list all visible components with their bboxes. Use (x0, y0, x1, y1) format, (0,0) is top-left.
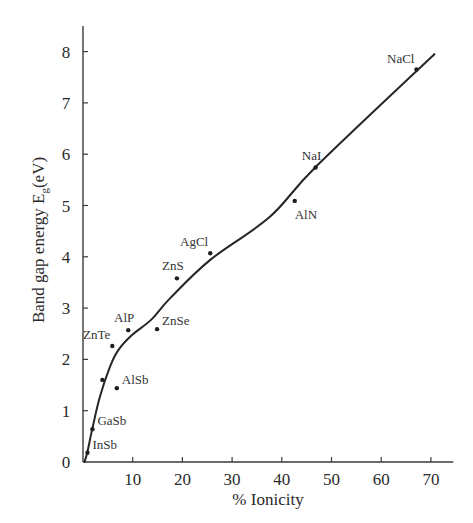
y-tick-label: 4 (62, 248, 71, 267)
point-marker (208, 251, 212, 255)
data-point-aln: AlN (293, 199, 318, 222)
point-label: AgCl (180, 234, 209, 249)
y-axis-title: Band gap energy Eg(eV) (29, 157, 50, 323)
y-tick-label: 3 (62, 299, 71, 318)
point-marker (100, 378, 104, 382)
x-tick-label: 20 (174, 470, 191, 489)
y-tick-label: 2 (62, 350, 71, 369)
data-point-alsb: AlSb (115, 372, 149, 390)
data-point-alp: AlP (114, 310, 134, 332)
point-label: AlN (295, 207, 318, 222)
point-marker (414, 67, 418, 71)
point-label: InSb (92, 437, 117, 452)
point-marker (90, 427, 94, 431)
point-label: ZnS (162, 258, 184, 273)
point-label: AlSb (122, 372, 149, 387)
trend-curve (84, 54, 434, 462)
point-marker (110, 344, 114, 348)
x-tick-label: 40 (273, 470, 290, 489)
band-gap-vs-ionicity-chart: 012345678 10203040506070 InSbGaSbAlSbZnT… (0, 0, 473, 523)
x-tick-label: 30 (224, 470, 241, 489)
data-point-agcl: AgCl (180, 234, 212, 255)
point-marker (313, 165, 317, 169)
point-label: NaI (302, 148, 322, 163)
y-tick-label: 1 (62, 402, 71, 421)
x-tick-label: 70 (422, 470, 439, 489)
data-points: InSbGaSbAlSbZnTeAlPZnSeZnSAgClAlNNaINaCl (83, 51, 419, 455)
point-marker (293, 199, 297, 203)
data-point-unlabeled (100, 378, 104, 382)
data-point-zns: ZnS (162, 258, 184, 280)
y-tick-label: 8 (62, 43, 71, 62)
y-tick-label: 5 (62, 197, 71, 216)
x-tick-label: 60 (373, 470, 390, 489)
x-axis-title: % Ionicity (232, 490, 304, 509)
y-axis-title-unit: (eV) (29, 157, 48, 188)
point-label: NaCl (387, 51, 415, 66)
point-label: ZnSe (162, 313, 190, 328)
y-tick-label: 0 (62, 453, 71, 472)
point-marker (175, 276, 179, 280)
y-tick-label: 6 (62, 145, 71, 164)
y-tick-label: 7 (62, 94, 71, 113)
x-tick-label: 50 (323, 470, 340, 489)
axes (83, 26, 453, 462)
y-axis-title-main: Band gap energy E (29, 194, 48, 324)
point-label: GaSb (97, 413, 126, 428)
point-marker (85, 451, 89, 455)
data-point-znse: ZnSe (155, 313, 190, 331)
data-point-nacl: NaCl (387, 51, 419, 72)
point-marker (126, 328, 130, 332)
point-label: AlP (114, 310, 134, 325)
data-point-znte: ZnTe (83, 327, 114, 348)
point-marker (155, 327, 159, 331)
x-tick-label: 10 (124, 470, 141, 489)
point-marker (115, 386, 119, 390)
data-point-nai: NaI (302, 148, 322, 170)
y-ticks: 012345678 (62, 43, 88, 472)
point-label: ZnTe (83, 327, 110, 342)
